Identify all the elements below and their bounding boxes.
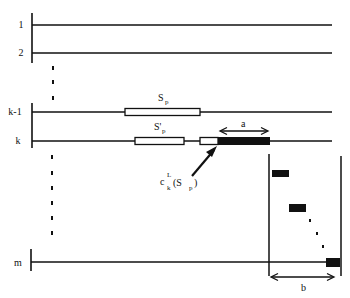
segment-k-black: [218, 137, 270, 145]
stair-ellipsis-icon: [309, 219, 324, 248]
ellipsis-upper-icon: [52, 66, 54, 100]
segment-k-white: [200, 138, 218, 145]
stair-block-1: [272, 170, 289, 177]
pointer-arrow-icon: [192, 146, 217, 176]
stair-block-last: [326, 258, 340, 267]
segment-sp-prime-sub: p: [162, 127, 166, 135]
stair-block-2: [289, 204, 306, 212]
row-label-m: m: [14, 257, 22, 268]
ck-label-arg-close: ): [194, 177, 197, 189]
arrow-b-label: b: [301, 282, 306, 293]
ck-label-sub: k: [167, 184, 171, 192]
row-label-2: 2: [19, 47, 24, 58]
arrow-a-label: a: [241, 118, 246, 129]
row-label-k: k: [16, 135, 21, 146]
ck-label-sup: L: [167, 171, 171, 179]
ck-label-c: c: [160, 176, 165, 187]
ck-label-arg-sub: p: [189, 184, 193, 192]
segment-sp: [125, 109, 200, 116]
arrow-b-icon: [271, 274, 334, 281]
ck-label-arg: (S: [173, 177, 182, 189]
segment-sp-label: S: [158, 92, 164, 103]
segment-sp-prime-label: S': [154, 121, 162, 132]
ellipsis-lower-icon: [51, 155, 53, 235]
segment-sp-sub: p: [165, 98, 169, 106]
diagram-canvas: 1 2 k-1 k m S p S' p a: [0, 0, 350, 298]
row-label-k-minus-1: k-1: [8, 106, 21, 117]
ck-label: c L k (S p ): [160, 171, 197, 192]
segment-sp-prime: [135, 138, 184, 145]
row-label-1: 1: [19, 19, 24, 30]
